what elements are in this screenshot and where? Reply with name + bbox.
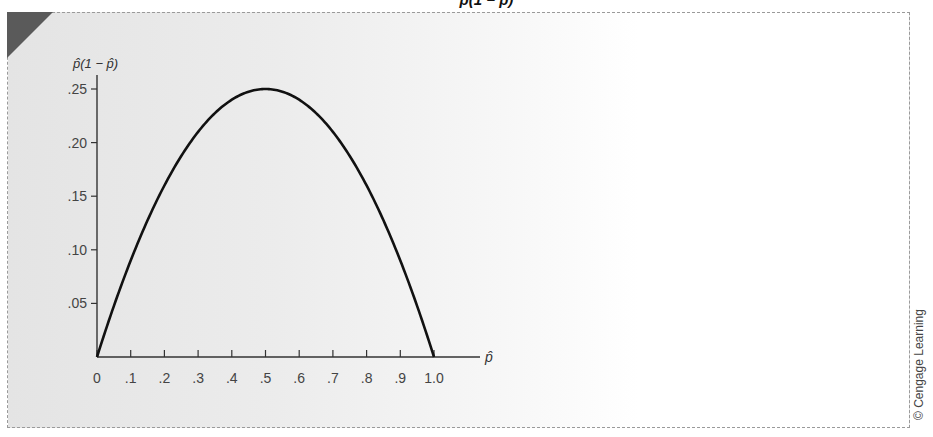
x-tick-label: .1 [125,370,137,386]
y-tick-label: .05 [68,295,88,311]
x-tick-label: .5 [260,370,272,386]
x-tick-label: .9 [394,370,406,386]
x-tick-label: 1.0 [424,370,444,386]
copyright-credit: © Cengage Learning [912,309,926,420]
x-tick-label: .7 [327,370,339,386]
y-tick-label: .10 [68,242,88,258]
x-tick-label: .6 [293,370,305,386]
curve-line [97,89,434,357]
x-axis-label: p̂ [484,349,493,365]
y-tick-label: .25 [68,81,88,97]
y-axis-label: p̂(1 − p̂) [72,56,118,71]
x-tick-label: .8 [361,370,373,386]
y-tick-label: .15 [68,188,88,204]
x-tick-label: .3 [192,370,204,386]
x-tick-label: .2 [159,370,171,386]
y-axis: .05.10.15.20.25 [68,75,97,357]
x-tick-label: .4 [226,370,238,386]
x-tick-label: 0 [93,370,101,386]
y-tick-label: .20 [68,135,88,151]
chart-plot: .05.10.15.20.25 0.1.2.3.4.5.6.7.8.91.0 p… [0,0,933,437]
x-axis: 0.1.2.3.4.5.6.7.8.91.0 [93,350,480,386]
